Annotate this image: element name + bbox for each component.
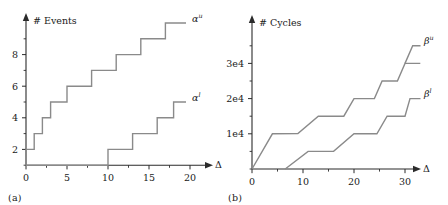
chart-b-svg: # Cycles Δ 1e4 2e4 3e4 0 10 20 30 βu βl: [224, 0, 448, 205]
x-tick-label-b-0: 0: [249, 176, 255, 187]
x-axis-b: [252, 166, 421, 173]
x-tick-label-a-20: 20: [184, 172, 196, 183]
y-tick-label-b-3e4: 3e4: [226, 58, 244, 69]
series-alpha-upper: [26, 23, 186, 165]
x-axis-title-a: Δ: [215, 159, 222, 170]
series-beta-lower: [285, 99, 420, 169]
y-axis-title-b: # Cycles: [259, 17, 302, 28]
chart-a-svg: # Events Δ 2 4 6 8 0 5 10 15 20 αu αl: [0, 0, 224, 205]
x-tick-label-a-15: 15: [143, 172, 155, 183]
x-tick-label-b-10: 10: [297, 176, 309, 187]
series-beta-upper-tail: [405, 46, 421, 64]
panel-b: # Cycles Δ 1e4 2e4 3e4 0 10 20 30 βu βl …: [224, 0, 448, 205]
panel-caption-a: (a): [8, 192, 22, 203]
y-tick-label-a-4: 4: [12, 112, 18, 123]
x-tick-label-b-30: 30: [399, 176, 411, 187]
x-tick-label-a-5: 5: [64, 172, 70, 183]
y-axis-b: [248, 15, 255, 169]
y-axis-title-a: # Events: [33, 15, 77, 26]
y-tick-label-a-8: 8: [12, 49, 18, 60]
y-axis-a: [22, 13, 29, 165]
series-label-alpha-lower: αl: [192, 91, 200, 103]
x-tick-label-a-10: 10: [102, 172, 114, 183]
x-axis-title-b: Δ: [423, 163, 430, 174]
panel-a: # Events Δ 2 4 6 8 0 5 10 15 20 αu αl (a…: [0, 0, 224, 205]
y-tick-label-a-2: 2: [12, 144, 18, 155]
panel-caption-b: (b): [228, 192, 242, 203]
x-tick-label-a-0: 0: [23, 172, 29, 183]
series-label-beta-upper: βu: [423, 34, 434, 46]
figure-container: # Events Δ 2 4 6 8 0 5 10 15 20 αu αl (a…: [0, 0, 448, 205]
y-tick-label-b-1e4: 1e4: [226, 128, 244, 139]
series-label-alpha-upper: αu: [192, 12, 203, 24]
series-label-beta-lower: βl: [423, 87, 432, 99]
y-tick-label-a-6: 6: [12, 81, 18, 92]
x-tick-label-b-20: 20: [348, 176, 360, 187]
y-tick-label-b-2e4: 2e4: [226, 93, 244, 104]
